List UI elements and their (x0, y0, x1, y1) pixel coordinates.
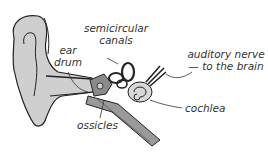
label-ear-line2: drum (53, 56, 83, 68)
label-semicircular-line1: semicircular (76, 22, 156, 34)
label-auditory-nerve: auditory nerve — to the brain (186, 48, 266, 72)
label-auditory-line1: auditory nerve (186, 48, 266, 60)
label-ear-drum: ear drum (53, 44, 83, 68)
ear-diagram: semicircular canals ear drum auditory ne… (0, 0, 268, 156)
auditory-nerve (146, 66, 166, 86)
label-cochlea: cochlea (185, 102, 225, 114)
label-ear-line1: ear (53, 44, 83, 56)
label-auditory-line2: — to the brain (186, 60, 266, 72)
label-semicircular-canals: semicircular canals (76, 22, 156, 46)
label-semicircular-line2: canals (76, 34, 156, 46)
semicircular-canal-2 (109, 73, 123, 83)
label-ossicles: ossicles (77, 119, 118, 131)
